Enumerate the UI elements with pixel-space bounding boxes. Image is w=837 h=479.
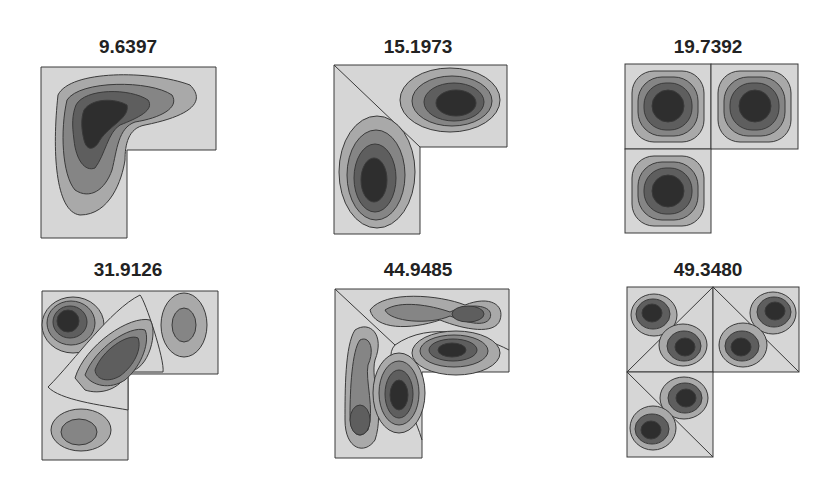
eigenmode-panel-4: 31.9126 [0,0,260,479]
eigenmode-panel-5: 44.9485 [290,0,550,479]
contour-plot-6 [580,0,837,479]
contour-plot-4 [0,0,260,479]
contour-plot-5 [290,0,550,479]
eigenmode-panel-6: 49.3480 [580,0,837,479]
